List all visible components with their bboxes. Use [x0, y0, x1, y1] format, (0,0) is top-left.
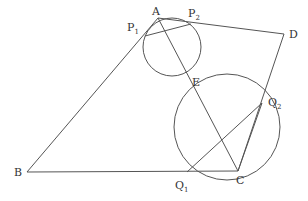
label-D: D — [289, 28, 298, 41]
label-E: E — [192, 76, 200, 89]
label-A: A — [151, 5, 161, 18]
label-P2: P2 — [188, 7, 200, 22]
segment-BA — [27, 18, 158, 172]
segment-AC — [158, 18, 238, 171]
segment-Q2C — [238, 103, 262, 171]
label-Q2: Q2 — [268, 96, 282, 111]
small-circle — [143, 18, 201, 76]
label-C: C — [236, 174, 244, 187]
label-Q1: Q1 — [175, 179, 189, 194]
segment-Q1Q2 — [187, 103, 262, 172]
segment-BC — [27, 171, 238, 172]
large-circle — [174, 74, 280, 180]
label-P1: P1 — [127, 21, 139, 36]
segment-AD — [158, 18, 284, 34]
geometry-diagram: A P1 P2 D E B Q1 C Q2 — [0, 0, 308, 201]
label-B: B — [14, 166, 22, 179]
